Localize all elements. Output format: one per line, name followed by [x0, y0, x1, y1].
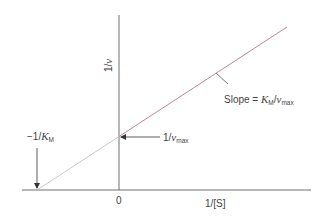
extrapolated-line [37, 137, 119, 191]
x-intercept-var: K [41, 130, 48, 142]
x-intercept-label: −1/KM [27, 131, 54, 144]
y-axis-label: 1/v [103, 59, 114, 72]
data-line [119, 27, 287, 137]
origin-label: 0 [116, 196, 122, 206]
y-intercept-sub: max [176, 137, 188, 144]
y-axis-label-var: v [102, 59, 114, 64]
slope-callout-line [216, 73, 228, 84]
x-intercept-sub: M [49, 136, 54, 143]
y-intercept-label: 1/vmax [163, 132, 189, 145]
y-axis-label-prefix: 1/ [103, 64, 114, 72]
slope-sub2: max [281, 99, 293, 106]
slope-label: Slope = KM/vmax [224, 94, 294, 107]
x-axis-label: 1/[S] [205, 199, 226, 209]
plot-canvas [0, 0, 329, 217]
slope-prefix: Slope = [224, 94, 261, 105]
x-intercept-prefix: −1/ [27, 131, 41, 142]
